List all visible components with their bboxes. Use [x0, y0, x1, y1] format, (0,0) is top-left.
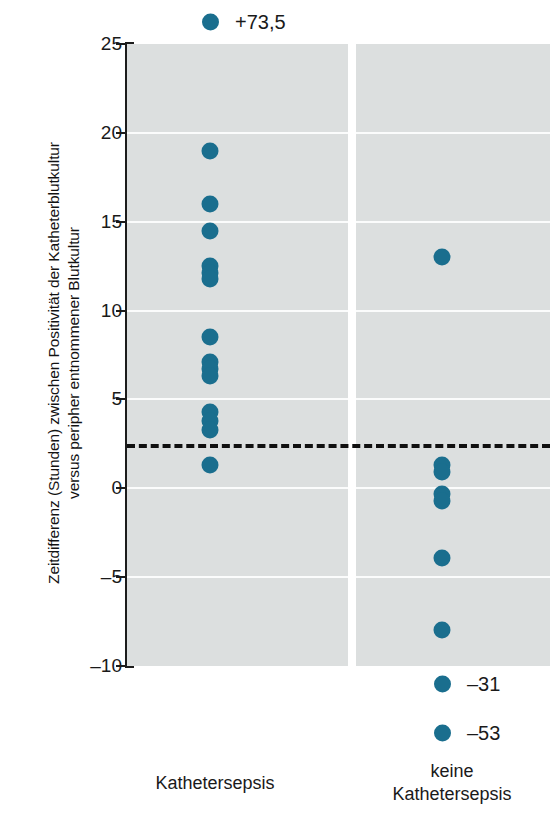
- data-point: [434, 464, 451, 481]
- data-point: [202, 142, 219, 159]
- outlier-point: [434, 676, 451, 693]
- gridline: [356, 398, 550, 400]
- category-label-line: keine: [392, 760, 511, 783]
- data-point: [202, 222, 219, 239]
- y-axis-title-line-1: Zeitdifferenz (Stunden) zwischen Positiv…: [45, 142, 62, 584]
- outlier-annotation: +73,5: [202, 11, 286, 34]
- category-label-line: Kathetersepsis: [392, 783, 511, 806]
- y-tick-label: 5: [13, 388, 125, 410]
- data-point: [434, 549, 451, 566]
- gridline: [356, 132, 550, 134]
- plot-panel-keine-kathetersepsis: [356, 44, 550, 666]
- gridline: [127, 398, 348, 400]
- gridline: [127, 576, 348, 578]
- data-point: [434, 492, 451, 509]
- outlier-label: –31: [467, 673, 500, 696]
- category-label-keine-kathetersepsis: keineKathetersepsis: [392, 760, 511, 806]
- category-label-line: Kathetersepsis: [155, 772, 274, 795]
- gridline: [127, 310, 348, 312]
- data-point: [434, 249, 451, 266]
- data-point: [202, 457, 219, 474]
- dot-plot-chart: Zeitdifferenz (Stunden) zwischen Positiv…: [0, 0, 550, 816]
- gridline: [356, 221, 550, 223]
- category-label-kathetersepsis: Kathetersepsis: [155, 772, 274, 795]
- outlier-annotation: –53: [434, 722, 500, 745]
- outlier-point: [202, 14, 219, 31]
- data-point: [434, 622, 451, 639]
- data-point: [202, 329, 219, 346]
- y-axis-top-cap: [125, 42, 134, 44]
- y-tick-label: 10: [13, 300, 125, 322]
- y-tick-label: 25: [13, 33, 125, 55]
- plot-panel-kathetersepsis: [127, 44, 348, 666]
- outlier-label: +73,5: [235, 11, 286, 34]
- y-axis-line: [125, 42, 127, 668]
- gridline: [127, 487, 348, 489]
- data-point: [202, 270, 219, 287]
- outlier-point: [434, 725, 451, 742]
- gridline: [127, 221, 348, 223]
- y-tick-label: 15: [13, 211, 125, 233]
- y-tick-label: –10: [13, 655, 125, 677]
- gridline: [356, 310, 550, 312]
- gridline: [356, 576, 550, 578]
- y-tick-label: 0: [13, 477, 125, 499]
- y-tick-label: 20: [13, 122, 125, 144]
- gridline: [127, 132, 348, 134]
- y-axis-bottom-cap: [125, 666, 134, 668]
- data-point: [202, 195, 219, 212]
- threshold-dashed-line: [127, 444, 550, 448]
- y-tick-label: –5: [13, 566, 125, 588]
- outlier-annotation: –31: [434, 673, 500, 696]
- data-point: [202, 368, 219, 385]
- gridline: [356, 487, 550, 489]
- outlier-label: –53: [467, 722, 500, 745]
- data-point: [202, 421, 219, 438]
